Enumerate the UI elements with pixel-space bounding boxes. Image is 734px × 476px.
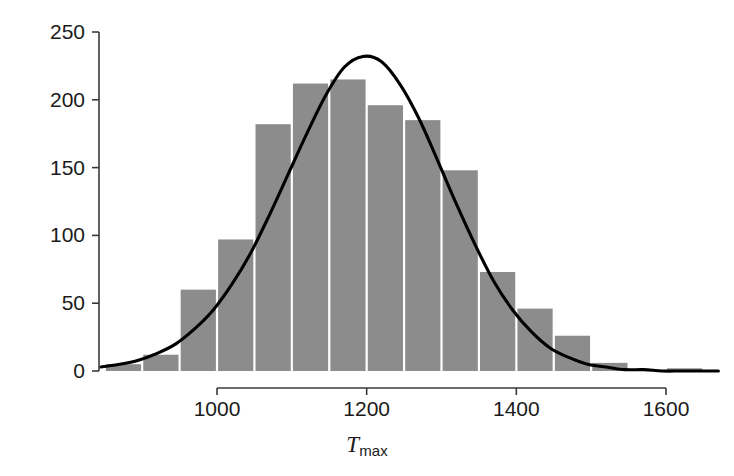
histogram-figure: 050100150200250 1000120014001600 Tmax — [0, 0, 734, 476]
histogram-bar — [517, 309, 552, 371]
y-tick-label: 250 — [50, 20, 85, 43]
y-tick-label: 150 — [50, 156, 85, 179]
x-axis-label: Tmax — [0, 432, 734, 459]
x-tick-label: 1400 — [493, 397, 540, 420]
y-tick-label: 50 — [62, 291, 85, 314]
x-axis-label-variable: T — [346, 432, 359, 457]
x-tick-label: 1000 — [194, 397, 241, 420]
x-tick-label: 1600 — [643, 397, 690, 420]
histogram-bar — [443, 170, 478, 371]
y-tick-label: 0 — [73, 359, 85, 382]
y-axis — [92, 32, 99, 371]
chart-canvas: 050100150200250 1000120014001600 — [0, 0, 734, 476]
y-tick-label: 100 — [50, 223, 85, 246]
x-tick-labels: 1000120014001600 — [194, 397, 690, 420]
histogram-bar — [330, 79, 365, 371]
histogram-bar — [368, 105, 403, 371]
histogram-bar — [181, 290, 216, 371]
y-tick-label: 200 — [50, 88, 85, 111]
x-axis — [217, 388, 666, 395]
histogram-bar — [256, 124, 291, 371]
x-tick-label: 1200 — [343, 397, 390, 420]
x-axis-label-subscript: max — [359, 442, 387, 459]
y-tick-labels: 050100150200250 — [50, 20, 85, 382]
